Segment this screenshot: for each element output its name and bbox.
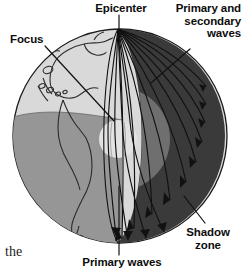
label-shadow-zone: Shadow zone [176,226,240,251]
label-primary-waves: Primary waves [62,256,182,269]
label-epicenter: Epicenter [78,2,164,15]
inner-core [99,120,137,158]
body-text-fragment: the [5,244,22,260]
figure-container: Epicenter Focus Primary and secondary wa… [0,0,243,273]
label-primary-and-secondary-waves: Primary and secondary waves [155,2,241,40]
label-focus: Focus [10,33,43,46]
